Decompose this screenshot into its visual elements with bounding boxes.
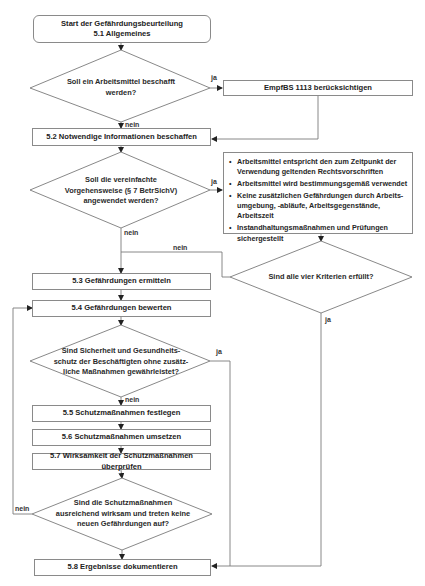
decision-1-line-1: Soll ein Arbeitsmittel beschafft: [67, 77, 175, 88]
criterion-3: Keine zusätzlichen Gefährdungen durch Ar…: [228, 191, 408, 221]
start-subtitle: 5.1 Allgemeines: [93, 29, 150, 39]
decision-5-line-3: neuen Gefährdungen auf?: [77, 519, 169, 530]
decision-4-line-2: schutz der Beschäftigten ohne zusätz-: [54, 357, 189, 368]
decision-2-line-1: Soll die vereinfachte: [85, 175, 157, 186]
decision-2-line-3: angewendet werden?: [83, 196, 158, 207]
decision-3-no-label: nein: [173, 244, 187, 251]
decision-5-line-1: Sind die Schutzmaßnahmen: [74, 498, 173, 509]
decision-5-line-2: ausreichend wirksam und treten keine: [56, 509, 190, 520]
decision-4-no-label: nein: [125, 396, 139, 403]
start-title: Start der Gefährdungsbeurteilung: [61, 19, 183, 29]
decision-4-text: Sind Sicherheit und Gesundheits- schutz …: [50, 343, 192, 381]
decision-3-text: Sind alle vier Kriterien erfüllt?: [255, 270, 387, 284]
decision-1-line-2: werden?: [106, 88, 136, 99]
decision-2-text: Soll die vereinfachte Vorgehensweise (§ …: [55, 172, 187, 210]
criterion-2: Arbeitsmittel wird bestimmungsgemäß verw…: [228, 179, 408, 189]
decision-4-yes-label: ja: [216, 348, 222, 355]
criterion-4: Instandhaltungsmaßnahmen und Prüfungen s…: [228, 223, 408, 243]
decision-4-line-1: Sind Sicherheit und Gesundheits-: [62, 346, 181, 357]
decision-2-line-2: Vorgehensweise (§ 7 BetrSichV): [65, 186, 177, 197]
decision-5-no-label: nein: [15, 505, 29, 512]
step-5-7: 5.7 Wirksamkeit der Schutzmaßnahmen über…: [32, 453, 211, 470]
decision-1-yes-label: ja: [211, 74, 217, 81]
decision-3-yes-label: ja: [325, 316, 331, 323]
step-5-6: 5.6 Schutzmaßnahmen umsetzen: [32, 429, 211, 446]
step-5-8: 5.8 Ergebnisse dokumentieren: [34, 559, 211, 576]
decision-2-yes-label: ja: [211, 178, 217, 185]
decision-1-text: Soll ein Arbeitsmittel beschafft werden?: [60, 72, 182, 104]
step-5-3: 5.3 Gefährdungen ermitteln: [32, 273, 211, 290]
decision-4-line-3: liche Maßnahmen gewährleistet?: [63, 367, 179, 378]
step-5-5: 5.5 Schutzmaßnahmen festlegen: [32, 405, 211, 422]
decision-5-text: Sind die Schutzmaßnahmen ausreichend wir…: [52, 495, 194, 533]
criteria-list-box: Arbeitsmittel entspricht den zum Zeitpun…: [223, 152, 413, 234]
step-empfbs-1113: EmpfBS 1113 berücksichtigen: [223, 80, 413, 96]
step-5-2: 5.2 Notwendige Informationen beschaffen: [32, 128, 211, 146]
decision-2-no-label: nein: [124, 229, 138, 236]
decision-1-no-label: nein: [125, 121, 139, 128]
criterion-1: Arbeitsmittel entspricht den zum Zeitpun…: [228, 157, 408, 177]
step-5-4: 5.4 Gefährdungen bewerten: [32, 300, 211, 317]
start-terminal: Start der Gefährdungsbeurteilung 5.1 All…: [33, 15, 211, 43]
